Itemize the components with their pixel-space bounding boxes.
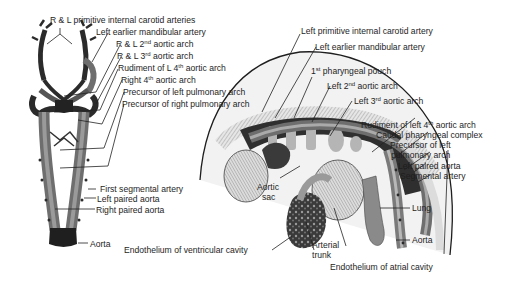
label-left-3rd-aortic-arch: Left 3rd aortic arch [354, 96, 423, 106]
label-left-primitive-internal-carotid: Left primitive internal carotid artery [301, 26, 433, 36]
label-rudiment-left-4th: Rudiment of left 4th aortic arch [361, 120, 476, 130]
label-arterial-trunk-line2: trunk [312, 250, 331, 260]
label-aortic-sac-line2: sac [262, 192, 275, 202]
label-rl-primitive-internal-carotid: R & L primitive internal carotid arterie… [50, 15, 195, 25]
label-precursor-right-pulmonary: Precursor of right pulmonary arch [122, 99, 250, 109]
label-segmental-artery: Segmental artery [400, 171, 465, 181]
label-left-earlier-mandibular-right: Left earlier mandibular artery [315, 42, 425, 52]
label-lung: Lung [412, 203, 431, 213]
label-first-pharyngeal-pouch: 1st pharyngeal pouch [311, 66, 391, 76]
label-arterial-trunk-line1: Arterial [312, 240, 339, 250]
label-caudal-pharyngeal-complex: Caudal pharyngeal complex [376, 130, 483, 140]
left-aortic-arch-drawing [32, 20, 96, 247]
label-rudiment-l-4th: Rudiment of L 4th aortic arch [118, 63, 226, 73]
label-right-4th: Right 4th aortic arch [121, 75, 196, 85]
label-left-paired-aorta: Left paired aorta [97, 194, 160, 204]
label-precursor-left-pulmonary: Precursor of left pulmonary arch [123, 87, 245, 97]
label-endothelium-ventricular: Endothelium of ventricular cavity [124, 245, 248, 255]
label-first-segmental: First segmental artery [100, 184, 183, 194]
label-left-2nd-aortic-arch: Left 2nd aortic arch [327, 81, 398, 91]
label-aorta-left: Aorta [90, 239, 111, 249]
label-rl-3rd-aortic-arch: R & L 3rd aortic arch [117, 51, 193, 61]
label-aortic-sac-line1: Aortic [257, 182, 279, 192]
label-precursor-left-pulmonary-line2: pulmonary arch [391, 150, 450, 160]
label-endothelium-atrial: Endothelium of atrial cavity [330, 262, 433, 272]
label-right-paired-aorta: Right paired aorta [96, 205, 164, 215]
label-aorta-right: Aorta [412, 235, 433, 245]
label-left-earlier-mandibular: Left earlier mandibular artery [96, 27, 206, 37]
label-precursor-left-pulmonary-line1: Precursor of left [390, 140, 451, 150]
label-left-paired-aorta-right: Left paired aorta [398, 161, 461, 171]
label-rl-2nd-aortic-arch: R & L 2nd aortic arch [116, 39, 194, 49]
